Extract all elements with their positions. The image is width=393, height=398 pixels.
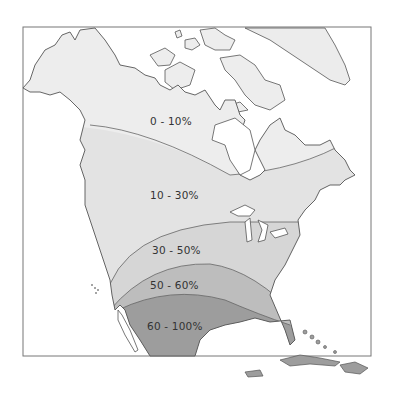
caribbean-islands bbox=[245, 355, 368, 377]
zone-label-0-10: 0 - 10% bbox=[150, 115, 192, 127]
zone-label-30-50: 30 - 50% bbox=[152, 244, 201, 256]
zone-label-10-30: 10 - 30% bbox=[150, 189, 199, 201]
zone-label-60-100: 60 - 100% bbox=[147, 320, 203, 332]
zone-label-50-60: 50 - 60% bbox=[150, 279, 199, 291]
